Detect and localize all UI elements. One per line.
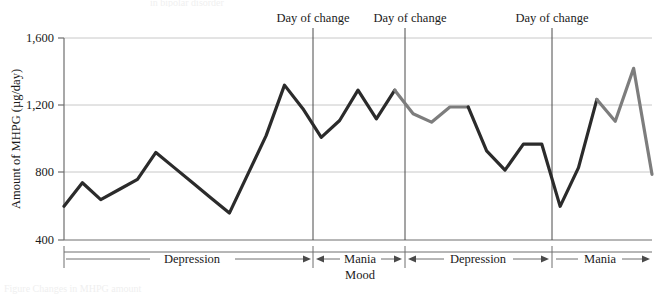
line-segment-mania-2 <box>597 68 652 174</box>
mood-arrow-right-1 <box>303 256 311 263</box>
y-tick-label-400: 400 <box>35 233 54 247</box>
figure-container: in bipolar disorder 1,600 1,200 800 400 … <box>0 0 660 295</box>
mood-axis: Depression Mania Depression Mania Mood <box>64 246 652 282</box>
mood-arrow-right-3 <box>541 256 549 263</box>
mood-arrow-left-3 <box>408 256 416 263</box>
mood-segment-label-1: Depression <box>164 252 221 266</box>
gridlines <box>64 38 652 240</box>
day-of-change-label-1: Day of change <box>277 11 350 25</box>
y-axis-label: Amount of MHPG (µg/day) <box>9 69 23 209</box>
y-tick-label-1200: 1,200 <box>26 98 54 112</box>
mood-arrow-right-2 <box>394 256 402 263</box>
y-tick-label-800: 800 <box>35 165 54 179</box>
day-of-change-label-3: Day of change <box>516 11 589 25</box>
line-segment-depression-1 <box>64 85 395 213</box>
y-tick-label-1600: 1,600 <box>26 31 54 45</box>
mood-segment-label-2: Mania <box>344 252 376 266</box>
mhpg-mood-line-chart: 1,600 1,200 800 400 Amount of MHPG (µg/d… <box>0 0 660 295</box>
data-lines <box>64 68 652 213</box>
mood-arrow-right-4 <box>642 256 650 263</box>
day-of-change-markers: Day of change Day of change Day of chang… <box>277 11 589 240</box>
line-segment-depression-2 <box>468 99 597 206</box>
mood-segment-label-4: Mania <box>584 252 616 266</box>
day-of-change-label-2: Day of change <box>374 11 447 25</box>
y-axis: 1,600 1,200 800 400 Amount of MHPG (µg/d… <box>9 31 64 247</box>
line-segment-mania-1 <box>395 90 469 122</box>
cut-off-caption-text: Figure Changes in MHPG amount <box>4 283 464 295</box>
mood-segment-label-3: Depression <box>450 252 507 266</box>
mood-axis-title: Mood <box>345 268 376 282</box>
mood-arrow-left-2 <box>316 256 324 263</box>
